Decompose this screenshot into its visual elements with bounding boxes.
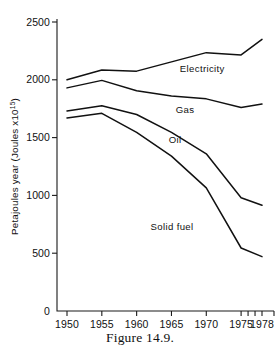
- series-label-oil: Oil: [169, 134, 182, 145]
- series-label-electricity: Electricity: [180, 63, 225, 74]
- x-tick-label: 1970: [194, 318, 218, 330]
- y-axis-title: Petajoules year (Joules x1015): [9, 98, 20, 235]
- series-line-electricity: [67, 39, 262, 79]
- series-line-solid-fuel: [67, 113, 262, 256]
- x-tick-label: 1960: [125, 318, 149, 330]
- figure-caption: Figure 14.9.: [0, 330, 280, 346]
- series-line-gas: [67, 80, 262, 107]
- x-tick-label: 1965: [160, 318, 184, 330]
- line-chart: 0500100015002000250019501955196019651970…: [0, 0, 280, 357]
- y-tick-label: 500: [32, 247, 50, 259]
- y-tick-label: 2500: [26, 16, 50, 28]
- x-tick-label: 1950: [55, 318, 79, 330]
- y-tick-label: 1500: [26, 131, 50, 143]
- series-label-gas: Gas: [176, 104, 195, 115]
- y-tick-label: 2000: [26, 73, 50, 85]
- series-label-solid-fuel: Solid fuel: [151, 221, 194, 232]
- figure-container: 0500100015002000250019501955196019651970…: [0, 0, 280, 357]
- x-tick-label: 1955: [90, 318, 114, 330]
- y-tick-label: 1000: [26, 189, 50, 201]
- series-line-oil: [67, 106, 262, 205]
- y-tick-label: 0: [44, 305, 50, 317]
- x-tick-label: 1978: [250, 318, 274, 330]
